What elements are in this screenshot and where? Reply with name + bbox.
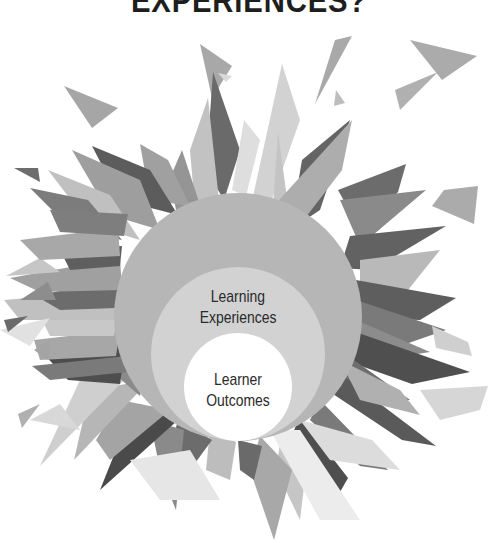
- learning-experiences-label: Learning Experiences: [181, 286, 296, 328]
- learner-outcomes-line2: Outcomes: [189, 390, 287, 411]
- learner-outcomes-line1: Learner: [189, 369, 287, 390]
- learner-outcomes-label: Learner Outcomes: [189, 369, 287, 411]
- learning-experiences-line2: Experiences: [181, 307, 296, 328]
- learning-experiences-line1: Learning: [181, 286, 296, 307]
- shard-burst-graphic: [0, 0, 498, 543]
- diagram-stage: EXPERIENCES?: [0, 0, 498, 543]
